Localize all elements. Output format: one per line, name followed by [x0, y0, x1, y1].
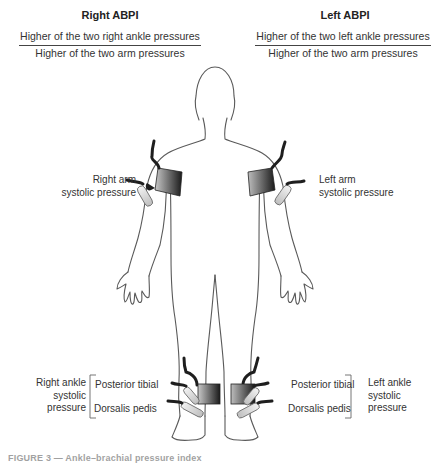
left-ankle-label: Left ankle systolic pressure	[368, 377, 430, 415]
right-foot-outline	[172, 416, 205, 440]
left-foot-outline	[225, 416, 258, 440]
right-ankle-label: Right ankle systolic pressure	[18, 377, 86, 415]
right-ankle-cuff	[168, 358, 220, 418]
left-ankle-label-line1: Left ankle	[368, 377, 430, 390]
right-ankle-label-line1: Right ankle	[18, 377, 86, 390]
left-ankle-cuff	[231, 358, 272, 419]
right-ankle-label-line2: systolic	[18, 390, 86, 403]
figure-caption: FIGURE 3 — Ankle–brachial pressure index	[8, 453, 308, 463]
right-arm-label-line1: Right arm	[30, 174, 136, 187]
left-ankle-label-line2: systolic	[368, 390, 430, 403]
head-outline	[195, 67, 235, 120]
right-ankle-label-line3: pressure	[18, 402, 86, 415]
left-arm-label-line1: Left arm	[319, 174, 429, 187]
right-arm-label-line2: systolic pressure	[30, 187, 136, 200]
right-arm-label: Right arm systolic pressure	[30, 174, 136, 199]
left-dorsalis-pedis-label: Dorsalis pedis	[288, 403, 351, 416]
left-hand-outline	[281, 272, 313, 304]
left-arm-label: Left arm systolic pressure	[319, 174, 429, 199]
left-arm-label-line2: systolic pressure	[319, 187, 429, 200]
left-posterior-tibial-label: Posterior tibial	[291, 379, 354, 392]
left-arm-cuff	[248, 142, 304, 206]
left-ankle-label-line3: pressure	[368, 402, 430, 415]
right-dorsalis-pedis-label: Dorsalis pedis	[94, 403, 157, 416]
right-posterior-tibial-label: Posterior tibial	[95, 379, 158, 392]
right-hand-outline	[117, 272, 149, 304]
